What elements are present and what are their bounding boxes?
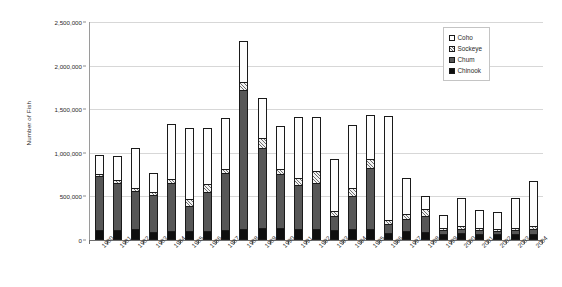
legend-item-coho[interactable]: Coho — [449, 32, 482, 43]
bar-group[interactable] — [507, 22, 525, 240]
bar-segment-chum[interactable] — [259, 149, 266, 229]
bar-segment-coho[interactable] — [512, 199, 519, 230]
bar-group[interactable] — [416, 22, 434, 240]
bar-segment-sockeye[interactable] — [422, 210, 429, 217]
bar-segment-sockeye[interactable] — [349, 189, 356, 197]
bar-segment-chinook[interactable] — [168, 232, 175, 239]
bar-segment-chum[interactable] — [114, 184, 121, 231]
stacked-bar[interactable] — [475, 210, 484, 240]
stacked-bar[interactable] — [330, 159, 339, 240]
bar-segment-coho[interactable] — [458, 199, 465, 227]
bar-segment-chinook[interactable] — [240, 230, 247, 239]
bar-segment-coho[interactable] — [96, 156, 103, 175]
bar-segment-coho[interactable] — [494, 213, 501, 230]
bar-group[interactable] — [253, 22, 271, 240]
bar-segment-coho[interactable] — [331, 160, 338, 211]
bar-segment-chinook[interactable] — [403, 232, 410, 239]
bar-segment-chinook[interactable] — [385, 234, 392, 239]
stacked-bar[interactable] — [276, 126, 285, 240]
bar-segment-chum[interactable] — [240, 91, 247, 230]
bar-group[interactable] — [271, 22, 289, 240]
bar-segment-chinook[interactable] — [367, 230, 374, 239]
bar-segment-chinook[interactable] — [259, 229, 266, 239]
stacked-bar[interactable] — [258, 98, 267, 240]
bar-segment-coho[interactable] — [440, 216, 447, 229]
stacked-bar[interactable] — [439, 215, 448, 240]
bar-segment-coho[interactable] — [222, 119, 229, 170]
stacked-bar[interactable] — [131, 148, 140, 240]
stacked-bar[interactable] — [366, 115, 375, 240]
bar-segment-chum[interactable] — [367, 169, 374, 230]
bar-segment-coho[interactable] — [403, 179, 410, 215]
bar-segment-chum[interactable] — [313, 184, 320, 230]
bar-group[interactable] — [217, 22, 235, 240]
bar-group[interactable] — [162, 22, 180, 240]
stacked-bar[interactable] — [384, 116, 393, 240]
bar-segment-chum[interactable] — [331, 217, 338, 231]
bar-segment-coho[interactable] — [476, 211, 483, 229]
bar-segment-sockeye[interactable] — [367, 160, 374, 169]
bar-segment-chum[interactable] — [403, 220, 410, 232]
bar-group[interactable] — [380, 22, 398, 240]
bar-segment-chinook[interactable] — [349, 230, 356, 239]
bar-segment-chinook[interactable] — [132, 230, 139, 239]
bar-segment-chinook[interactable] — [295, 230, 302, 239]
bar-segment-chinook[interactable] — [331, 231, 338, 239]
bar-group[interactable] — [90, 22, 108, 240]
bar-group[interactable] — [144, 22, 162, 240]
bar-segment-coho[interactable] — [259, 99, 266, 139]
bar-group[interactable] — [325, 22, 343, 240]
stacked-bar[interactable] — [239, 41, 248, 240]
bar-segment-chinook[interactable] — [114, 231, 121, 239]
bar-group[interactable] — [235, 22, 253, 240]
bar-segment-chinook[interactable] — [222, 231, 229, 239]
bar-segment-coho[interactable] — [277, 127, 284, 171]
stacked-bar[interactable] — [221, 118, 230, 240]
bar-segment-chinook[interactable] — [150, 233, 157, 239]
stacked-bar[interactable] — [402, 178, 411, 240]
bar-segment-coho[interactable] — [240, 42, 247, 83]
bar-group[interactable] — [398, 22, 416, 240]
bar-segment-sockeye[interactable] — [313, 172, 320, 184]
bar-segment-chum[interactable] — [132, 192, 139, 231]
bar-segment-coho[interactable] — [295, 118, 302, 179]
stacked-bar[interactable] — [511, 198, 520, 240]
bar-segment-coho[interactable] — [186, 129, 193, 199]
bar-segment-coho[interactable] — [132, 149, 139, 189]
bar-group[interactable] — [199, 22, 217, 240]
bar-group[interactable] — [344, 22, 362, 240]
bar-segment-chinook[interactable] — [313, 230, 320, 239]
stacked-bar[interactable] — [529, 181, 538, 240]
legend-item-chinook[interactable]: Chinook — [449, 65, 482, 76]
legend-item-sockeye[interactable]: Sockeye — [449, 43, 482, 54]
stacked-bar[interactable] — [421, 196, 430, 240]
bar-segment-chum[interactable] — [222, 174, 229, 231]
stacked-bar[interactable] — [203, 128, 212, 240]
stacked-bar[interactable] — [95, 155, 104, 240]
bar-segment-chinook[interactable] — [186, 232, 193, 239]
bar-segment-coho[interactable] — [422, 197, 429, 210]
bar-segment-chum[interactable] — [277, 175, 284, 229]
bar-segment-chum[interactable] — [186, 207, 193, 232]
bar-group[interactable] — [307, 22, 325, 240]
bar-segment-chum[interactable] — [150, 196, 157, 233]
bar-group[interactable] — [362, 22, 380, 240]
bar-segment-sockeye[interactable] — [204, 185, 211, 193]
bar-segment-chum[interactable] — [385, 225, 392, 234]
bar-segment-coho[interactable] — [313, 118, 320, 172]
bar-segment-chum[interactable] — [96, 177, 103, 231]
bar-segment-coho[interactable] — [385, 117, 392, 222]
stacked-bar[interactable] — [185, 128, 194, 240]
bar-segment-coho[interactable] — [349, 126, 356, 189]
stacked-bar[interactable] — [294, 117, 303, 240]
bar-segment-chinook[interactable] — [204, 232, 211, 239]
bar-segment-coho[interactable] — [114, 157, 121, 181]
bar-segment-chinook[interactable] — [530, 235, 537, 239]
bar-segment-sockeye[interactable] — [240, 83, 247, 91]
bar-segment-chum[interactable] — [295, 186, 302, 230]
bar-segment-coho[interactable] — [367, 116, 374, 160]
bar-segment-chum[interactable] — [422, 217, 429, 233]
bar-group[interactable] — [525, 22, 543, 240]
bar-segment-coho[interactable] — [204, 129, 211, 185]
bar-group[interactable] — [488, 22, 506, 240]
